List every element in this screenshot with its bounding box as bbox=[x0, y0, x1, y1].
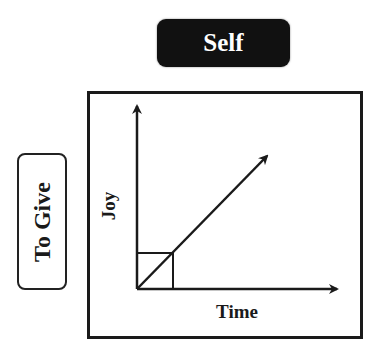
x-axis-label: Time bbox=[216, 301, 258, 322]
y-axis-label: Joy bbox=[98, 191, 119, 220]
joy-time-graph: Joy Time bbox=[0, 0, 381, 359]
